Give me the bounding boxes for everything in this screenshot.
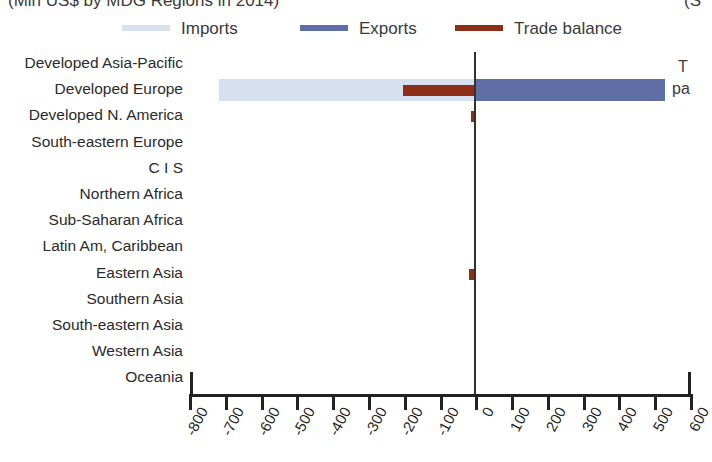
bar-trade-balance	[403, 85, 476, 96]
chart-title: (Mln US$ by MDG Regions in 2014) (S	[0, 0, 705, 13]
category-label: Sub-Saharan Africa	[0, 212, 183, 228]
legend-item-imports[interactable]: Imports	[122, 15, 238, 41]
x-axis-right-cap	[688, 372, 691, 395]
category-label: Developed Asia-Pacific	[0, 55, 183, 71]
legend-label-trade-balance: Trade balance	[514, 20, 622, 37]
x-tick-label: -600	[253, 404, 282, 438]
x-tick	[404, 394, 407, 410]
x-tick	[654, 394, 657, 410]
x-tick-label: -100	[432, 404, 461, 438]
x-axis-left-cap	[190, 372, 193, 395]
x-tick-label: -800	[182, 404, 211, 438]
right-annotation-line1: T	[678, 58, 688, 76]
legend-item-exports[interactable]: Exports	[300, 15, 417, 41]
chart-title-left: (Mln US$ by MDG Regions in 2014)	[8, 0, 279, 11]
x-tick-label: -200	[397, 404, 426, 438]
category-label: South-eastern Europe	[0, 134, 183, 150]
x-tick	[583, 394, 586, 410]
category-label: Developed N. America	[0, 107, 183, 123]
x-tick-label: -400	[325, 404, 354, 438]
bar-exports	[476, 79, 665, 101]
x-tick	[261, 394, 264, 410]
x-tick	[547, 394, 550, 410]
x-tick	[296, 394, 299, 410]
right-annotation-line2: pa	[672, 80, 690, 98]
category-label: South-eastern Asia	[0, 317, 183, 333]
x-tick	[225, 394, 228, 410]
legend-item-trade-balance[interactable]: Trade balance	[455, 15, 622, 41]
x-tick	[332, 394, 335, 410]
x-tick	[368, 394, 371, 410]
category-label: C I S	[0, 160, 183, 176]
x-tick	[440, 394, 443, 410]
category-label: Developed Europe	[0, 81, 183, 97]
category-label: Latin Am, Caribbean	[0, 238, 183, 254]
x-tick-label: 0	[478, 404, 497, 419]
category-label: Southern Asia	[0, 291, 183, 307]
x-tick	[618, 394, 621, 410]
chart-title-right: (S	[684, 0, 701, 11]
x-tick	[475, 394, 478, 410]
zero-line	[474, 52, 476, 396]
chart-legend: Imports Exports Trade balance	[0, 15, 705, 41]
x-tick-label: -500	[289, 404, 318, 438]
legend-label-exports: Exports	[359, 20, 417, 37]
x-tick-label: -700	[218, 404, 247, 438]
x-tick-label: -300	[361, 404, 390, 438]
legend-label-imports: Imports	[181, 20, 238, 37]
category-label: Oceania	[0, 369, 183, 385]
x-tick	[189, 394, 192, 410]
category-label: Eastern Asia	[0, 265, 183, 281]
legend-swatch-trade-balance	[455, 25, 503, 31]
legend-swatch-exports	[300, 25, 348, 31]
legend-swatch-imports	[122, 25, 170, 31]
category-label: Western Asia	[0, 343, 183, 359]
x-tick	[511, 394, 514, 410]
x-tick	[690, 394, 693, 410]
category-label: Northern Africa	[0, 186, 183, 202]
